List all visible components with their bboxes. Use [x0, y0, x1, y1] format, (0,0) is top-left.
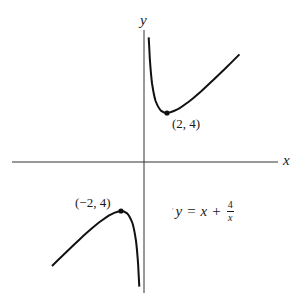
point-max-marker [118, 208, 123, 213]
point-min-label: (2, 4) [172, 117, 200, 130]
graph-canvas [0, 0, 304, 306]
equation-equals: = [187, 204, 195, 219]
equation-label: ' y = x + 4 x [172, 200, 234, 223]
equation-lhs: y [175, 204, 182, 219]
stray-mark: ' [172, 208, 173, 216]
point-min-marker [164, 110, 169, 115]
y-axis-label: y [140, 13, 147, 28]
equation-fraction: 4 x [227, 200, 234, 223]
fraction-denominator: x [228, 212, 232, 223]
upper-branch-curve [149, 37, 240, 113]
equation-plus: + [212, 204, 220, 219]
lower-branch-curve [52, 211, 139, 287]
equation-term: x [201, 204, 208, 219]
point-max-label: (−2, 4) [75, 196, 111, 209]
x-axis-label: x [283, 153, 290, 168]
fraction-numerator: 4 [227, 200, 234, 212]
